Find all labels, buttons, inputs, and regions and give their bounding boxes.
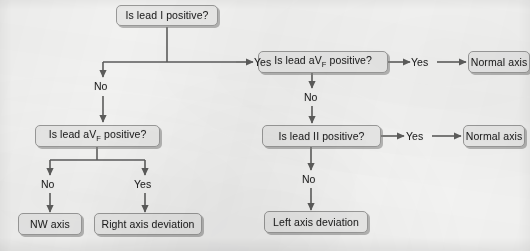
- node-label: Is lead aVF positive?: [274, 55, 372, 69]
- edge-label-avf-right-yes: Yes: [411, 57, 428, 68]
- node-normal-axis-mid[interactable]: Normal axis: [463, 125, 525, 147]
- node-label: Is lead aVF positive?: [49, 129, 147, 143]
- edge-label-avf-left-yes: Yes: [134, 179, 151, 190]
- node-is-lead-avf-positive-right[interactable]: Is lead aVF positive?: [258, 51, 388, 73]
- edge-label-lead-ii-yes: Yes: [406, 131, 423, 142]
- node-left-axis-deviation[interactable]: Left axis deviation: [264, 211, 368, 233]
- node-label: Right axis deviation: [101, 219, 194, 230]
- node-label: Normal axis: [471, 57, 528, 68]
- flowchart-page: Is lead I positive? Is lead aVF positive…: [0, 0, 530, 251]
- node-label: Normal axis: [466, 131, 523, 142]
- node-is-lead-avf-positive-left[interactable]: Is lead aVF positive?: [35, 125, 160, 147]
- node-right-axis-deviation[interactable]: Right axis deviation: [94, 213, 202, 235]
- edge-label-lead-i-no: No: [94, 81, 107, 92]
- edge-label-lead-i-yes: Yes: [254, 57, 271, 68]
- node-label: Is lead I positive?: [125, 10, 208, 21]
- edge-label-lead-ii-no: No: [302, 174, 315, 185]
- node-normal-axis-top[interactable]: Normal axis: [468, 51, 530, 73]
- node-is-lead-i-positive[interactable]: Is lead I positive?: [116, 5, 218, 26]
- node-is-lead-ii-positive[interactable]: Is lead II positive?: [262, 125, 381, 147]
- edge-label-avf-left-no: No: [41, 179, 54, 190]
- node-label: Is lead II positive?: [278, 131, 364, 142]
- node-label: Left axis deviation: [273, 217, 359, 228]
- node-label: NW axis: [30, 219, 70, 230]
- node-nw-axis[interactable]: NW axis: [18, 213, 82, 235]
- edge-label-avf-right-no: No: [304, 92, 317, 103]
